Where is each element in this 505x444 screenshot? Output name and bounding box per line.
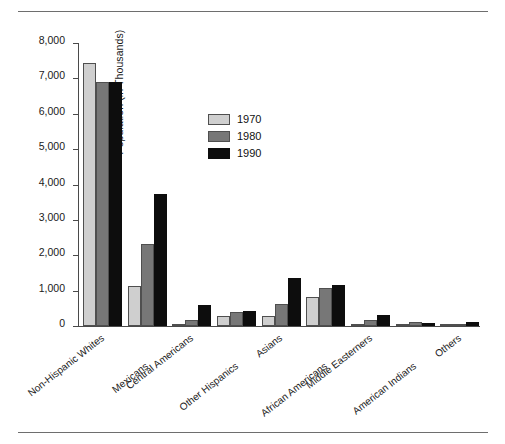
y-axis-tick: 6,000: [73, 114, 78, 115]
y-axis-line: [78, 43, 79, 327]
bar-group: [262, 38, 301, 326]
bar[interactable]: [230, 312, 243, 327]
bar[interactable]: [332, 285, 345, 326]
bar[interactable]: [141, 244, 154, 326]
bar-group: [83, 38, 122, 326]
y-axis-tick-label: 6,000: [39, 106, 65, 117]
legend-swatch-icon: [208, 131, 230, 142]
legend-item[interactable]: 1990: [208, 147, 261, 160]
bottom-divider-rule: [18, 432, 488, 433]
bar[interactable]: [288, 278, 301, 326]
y-axis-tick-label: 7,000: [39, 70, 65, 81]
y-axis-tick: 3,000: [73, 220, 78, 221]
bar[interactable]: [262, 316, 275, 326]
y-axis-tick: 0: [73, 326, 78, 327]
y-axis-tick-label: 2,000: [39, 247, 65, 258]
bar-group: [396, 38, 435, 326]
figure-container: Population (in Thousands) 01,0002,0003,0…: [0, 0, 505, 444]
plot-area: Population (in Thousands) 01,0002,0003,0…: [78, 38, 480, 327]
bar-group: [351, 38, 390, 326]
y-axis-tick-label: 3,000: [39, 212, 65, 223]
legend-swatch-icon: [208, 148, 230, 159]
bar[interactable]: [440, 324, 453, 326]
bar[interactable]: [217, 316, 230, 326]
bar-group: [217, 38, 256, 326]
bar[interactable]: [351, 324, 364, 326]
bar[interactable]: [109, 82, 122, 326]
bar-group: [440, 38, 479, 326]
bar[interactable]: [466, 322, 479, 326]
y-axis-tick: 8,000: [73, 43, 78, 44]
bar[interactable]: [377, 315, 390, 326]
x-axis-tick-label: Others: [362, 333, 463, 415]
bar-group: [172, 38, 211, 326]
bar[interactable]: [243, 311, 256, 326]
legend-swatch-icon: [208, 114, 230, 125]
legend-label: 1980: [237, 131, 261, 142]
bar[interactable]: [422, 323, 435, 326]
y-axis-tick-label: 4,000: [39, 177, 65, 188]
bar[interactable]: [172, 324, 185, 326]
bar[interactable]: [128, 286, 141, 326]
bar-group: [128, 38, 167, 326]
bar[interactable]: [185, 320, 198, 326]
bar[interactable]: [83, 63, 96, 326]
bar[interactable]: [453, 324, 466, 326]
bar[interactable]: [198, 305, 211, 326]
bar[interactable]: [364, 320, 377, 326]
bar[interactable]: [306, 297, 319, 326]
bar[interactable]: [275, 304, 288, 326]
y-axis-tick: 7,000: [73, 78, 78, 79]
bar-group: [306, 38, 345, 326]
legend: 197019801990: [208, 113, 261, 164]
y-axis-tick-label: 8,000: [39, 35, 65, 46]
y-axis-tick: 2,000: [73, 255, 78, 256]
y-axis-tick-label: 5,000: [39, 141, 65, 152]
y-axis-tick-label: 0: [59, 318, 65, 329]
bar[interactable]: [319, 288, 332, 326]
legend-label: 1970: [237, 114, 261, 125]
x-axis-line: [78, 326, 480, 327]
bar[interactable]: [396, 324, 409, 326]
y-axis-tick: 1,000: [73, 291, 78, 292]
y-axis-tick-label: 1,000: [39, 283, 65, 294]
bar[interactable]: [409, 322, 422, 326]
y-axis-tick: 4,000: [73, 185, 78, 186]
legend-label: 1990: [237, 148, 261, 159]
legend-item[interactable]: 1970: [208, 113, 261, 126]
top-divider-rule: [18, 11, 488, 12]
bar[interactable]: [154, 194, 167, 326]
legend-item[interactable]: 1980: [208, 130, 261, 143]
bar[interactable]: [96, 82, 109, 326]
y-axis-tick: 5,000: [73, 149, 78, 150]
